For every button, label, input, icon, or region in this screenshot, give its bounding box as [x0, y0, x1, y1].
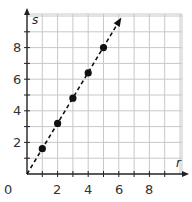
- y-tick-2: 2: [13, 135, 21, 150]
- origin-label: 0: [4, 182, 12, 197]
- y-tick-4: 4: [13, 103, 21, 118]
- y-axis-label: s: [32, 13, 38, 27]
- x-tick-6: 6: [115, 182, 123, 197]
- x-tick-2: 2: [53, 182, 61, 197]
- chart: 0 2 4 6 8 2 4 6 8 r s: [0, 0, 192, 202]
- gridlines: [27, 14, 182, 174]
- data-point: [100, 44, 107, 51]
- data-point: [54, 120, 61, 127]
- line-arrow-icon: [114, 17, 122, 27]
- x-tick-4: 4: [84, 182, 92, 197]
- data-point: [39, 145, 46, 152]
- y-axis-arrow-icon: [24, 8, 30, 15]
- y-tick-8: 8: [13, 40, 21, 55]
- x-axis-arrow-icon: [182, 171, 189, 177]
- data-point: [85, 69, 92, 76]
- y-tick-6: 6: [13, 72, 21, 87]
- data-point: [69, 95, 76, 102]
- x-tick-8: 8: [145, 182, 153, 197]
- tick-marks: [24, 32, 165, 177]
